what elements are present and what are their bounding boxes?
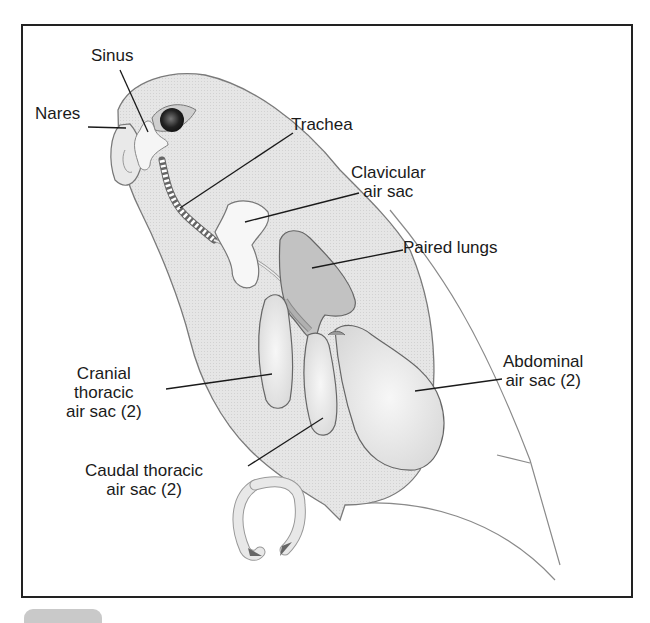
figure-tab [24, 609, 102, 623]
label-caudal-thoracic-air-sac: Caudal thoracic air sac (2) [85, 461, 203, 499]
label-abdominal-air-sac: Abdominal air sac (2) [503, 352, 583, 390]
label-sinus: Sinus [91, 46, 134, 65]
label-nares: Nares [35, 104, 80, 123]
label-paired-lungs: Paired lungs [403, 238, 498, 257]
label-trachea: Trachea [291, 115, 353, 134]
label-clavicular-air-sac: Clavicular air sac [351, 163, 426, 201]
foot [238, 482, 300, 556]
label-cranial-thoracic-air-sac: Cranial thoracic air sac (2) [66, 364, 142, 421]
cranial-thoracic-air-sac-shape [259, 295, 293, 408]
